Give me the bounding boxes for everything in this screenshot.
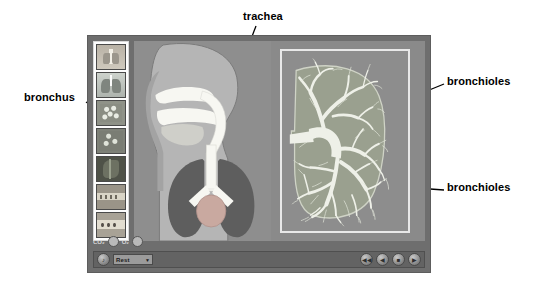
mode-select-dropdown[interactable]: Rest ▼ <box>113 254 153 265</box>
annotation-label-bronchus: bronchus <box>24 92 75 103</box>
annotation-label-trachea: trachea <box>243 11 283 22</box>
thumbnail-lungs[interactable] <box>96 72 126 98</box>
co2-indicator-label: CO₂ <box>93 239 105 245</box>
annotation-label-bronchioles-upper: bronchioles <box>447 76 510 87</box>
step-back-button[interactable]: ◀ <box>376 253 389 266</box>
sound-button[interactable]: ♪ <box>97 253 110 266</box>
gas-indicator-row: CO₂ O₂ <box>93 235 143 248</box>
cross-section-frame <box>280 49 410 233</box>
thumbnail-torso-overview[interactable] <box>96 44 126 70</box>
thumbnail-bronchial-tree[interactable] <box>96 100 126 126</box>
thumbnail-lung-tissue-dark[interactable] <box>96 156 126 182</box>
transport-control-bar[interactable]: ♪ Rest ▼ ◀◀ ◀ ■ ▶ <box>93 251 425 268</box>
chevron-down-icon: ▼ <box>145 257 150 263</box>
co2-indicator-dot[interactable] <box>108 236 119 247</box>
heart <box>197 195 226 227</box>
o2-indicator-label: O₂ <box>122 239 129 245</box>
application-window: CO₂ O₂ ♪ Rest ▼ ◀◀ ◀ ■ ▶ <box>88 36 430 272</box>
cross-section-image <box>285 54 405 228</box>
annotation-label-bronchioles-lower: bronchioles <box>447 182 510 193</box>
skip-back-button[interactable]: ◀◀ <box>360 253 373 266</box>
trachea-tube <box>206 145 216 189</box>
stop-button[interactable]: ■ <box>392 253 405 266</box>
o2-indicator-dot[interactable] <box>132 236 143 247</box>
thumbnail-alveoli-strip[interactable] <box>96 184 126 210</box>
play-button[interactable]: ▶ <box>408 253 421 266</box>
thumbnail-bronchial-tree-detail[interactable] <box>96 128 126 154</box>
lung-cross-section-diagram[interactable] <box>271 41 425 241</box>
sagittal-airway-diagram[interactable] <box>134 41 271 241</box>
thumbnail-rail[interactable] <box>93 41 129 241</box>
screenshot-stage: trachea bronchus bronchioles bronchioles <box>0 0 539 284</box>
mode-select-value: Rest <box>116 257 130 263</box>
main-viewport[interactable] <box>134 41 425 241</box>
